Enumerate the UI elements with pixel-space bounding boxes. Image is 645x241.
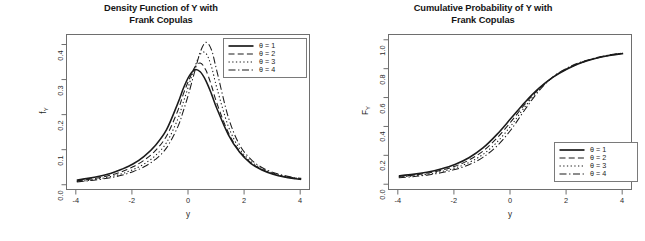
y-tick-label: 0.2 <box>56 114 65 136</box>
y-tick-label: 0.4 <box>56 44 65 66</box>
x-tick-label: 4 <box>610 196 634 205</box>
legend-item: θ = 4 <box>228 66 302 74</box>
legend-cumulative: θ = 1θ = 2θ = 3θ = 4 <box>554 142 638 182</box>
legend-line-sample-icon <box>559 170 585 178</box>
chart-panel-density: Density Function of Y with Frank Copulas… <box>0 0 322 241</box>
legend-line-sample-icon <box>228 58 254 66</box>
x-tick-label: -4 <box>64 196 88 205</box>
x-tick-label: 0 <box>176 196 200 205</box>
legend-line-sample-icon <box>228 50 254 58</box>
y-tick-label: 0.1 <box>56 149 65 171</box>
legend-line-sample-icon <box>228 42 254 50</box>
x-tick-label: 0 <box>498 196 522 205</box>
x-axis-title-text: y <box>168 210 208 219</box>
y-axis-title-subscript: Y <box>43 107 49 111</box>
x-tick-label: -2 <box>120 196 144 205</box>
legend-density: θ = 1θ = 2θ = 3θ = 4 <box>223 38 307 78</box>
y-axis-title-density: fY <box>39 81 48 141</box>
y-tick-label: 0.4 <box>378 126 387 148</box>
y-axis-title-cumulative: FY <box>361 81 370 141</box>
x-tick-label: 4 <box>288 196 312 205</box>
x-tick-label: -4 <box>386 196 410 205</box>
chart-panel-cumulative: Cumulative Probability of Y with Frank C… <box>322 0 644 241</box>
legend-line-sample-icon <box>559 146 585 154</box>
legend-line-sample-icon <box>228 66 254 74</box>
x-tick-label: -2 <box>442 196 466 205</box>
x-axis-title-text: y <box>490 210 530 219</box>
legend-line-sample-icon <box>559 162 585 170</box>
y-axis-title-base: f <box>39 111 48 113</box>
y-tick-label: 1.0 <box>378 39 387 61</box>
legend-label: θ = 4 <box>259 66 275 74</box>
y-tick-label: 0.6 <box>378 97 387 119</box>
legend-line-sample-icon <box>559 154 585 162</box>
y-axis-title-subscript: Y <box>365 106 371 110</box>
y-axis-title-base: F <box>361 110 370 115</box>
y-tick-label: 0.2 <box>378 155 387 177</box>
y-tick-label: 0.3 <box>56 79 65 101</box>
legend-label: θ = 4 <box>590 170 606 178</box>
x-tick-label: 2 <box>554 196 578 205</box>
y-tick-label: 0.8 <box>378 68 387 90</box>
figure-canvas: Density Function of Y with Frank Copulas… <box>0 0 645 241</box>
x-tick-label: 2 <box>232 196 256 205</box>
legend-item: θ = 4 <box>559 170 633 178</box>
